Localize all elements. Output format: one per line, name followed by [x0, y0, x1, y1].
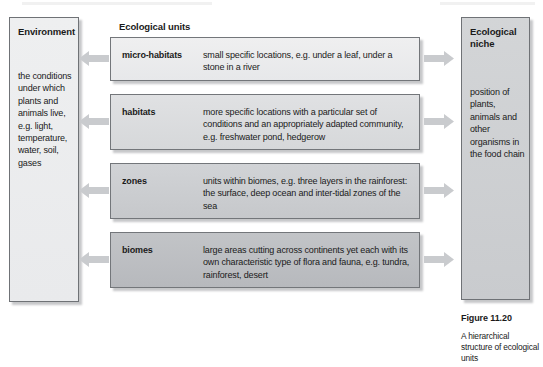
unit-description-zones: units within biomes, e.g. three layers i… [203, 175, 411, 212]
ecological-units-heading: Ecological units [119, 21, 190, 32]
unit-box-biomes: biomes large areas cutting across contin… [110, 232, 420, 288]
unit-term-habitats: habitats [122, 106, 202, 118]
unit-term-zones: zones [122, 175, 202, 187]
ecological-niche-title: Ecological niche [470, 26, 524, 49]
arrow-left-icon [79, 113, 109, 130]
unit-box-zones: zones units within biomes, e.g. three la… [110, 163, 420, 219]
unit-term-biomes: biomes [122, 244, 202, 256]
scan-artifact [22, 2, 212, 5]
arrow-right-icon [424, 113, 454, 130]
arrow-right-icon [424, 182, 454, 199]
environment-body-text: the conditions under which plants and an… [18, 70, 74, 169]
arrow-left-icon [79, 50, 109, 67]
unit-box-habitats: habitats more specific locations with a … [110, 94, 420, 150]
unit-term-micro-habitats: micro-habitats [122, 49, 202, 61]
unit-description-habitats: more specific locations with a particula… [203, 106, 411, 143]
environment-panel: Environment the conditions under which p… [9, 17, 79, 302]
environment-title: Environment [18, 26, 73, 38]
figure-caption-label: Figure 11.20 [461, 312, 539, 324]
arrow-right-icon [424, 251, 454, 268]
ecological-niche-body-text: position of plants, animals and other or… [470, 86, 525, 160]
figure-container: Environment the conditions under which p… [0, 0, 543, 367]
figure-caption: Figure 11.20 A hierarchical structure of… [461, 312, 539, 365]
arrow-left-icon [79, 182, 109, 199]
unit-description-biomes: large areas cutting across continents ye… [203, 244, 411, 281]
arrow-left-icon [79, 251, 109, 268]
arrow-right-icon [424, 50, 454, 67]
unit-description-micro-habitats: small specific locations, e.g. under a l… [203, 49, 411, 74]
figure-caption-text: A hierarchical structure of ecological u… [461, 331, 539, 365]
scan-artifact [440, 2, 535, 5]
unit-box-micro-habitats: micro-habitats small specific locations,… [110, 37, 420, 81]
ecological-niche-panel: Ecological niche position of plants, ani… [461, 17, 530, 300]
